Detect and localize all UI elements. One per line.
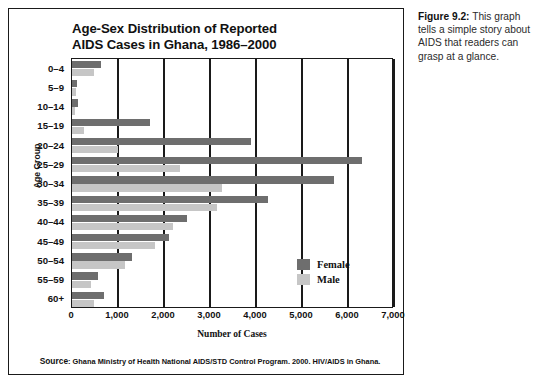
y-tick-label-25–29: 25–29: [37, 158, 64, 169]
bar-row: [72, 155, 392, 174]
bar-row: [72, 117, 392, 136]
bar-female-30–34: [72, 176, 334, 183]
bar-female-60+: [72, 292, 104, 299]
y-tick-label-40–44: 40–44: [37, 216, 64, 227]
y-tick-label-55–59: 55–59: [37, 274, 64, 285]
y-tick-label-10–14: 10–14: [37, 101, 64, 112]
y-tick-label-5–9: 5–9: [48, 81, 64, 92]
x-tick-label-1000: 1,000: [105, 310, 128, 320]
legend-item-female: Female: [297, 259, 350, 270]
y-tick-label-60+: 60+: [48, 293, 64, 304]
y-tick-label-35–39: 35–39: [37, 197, 64, 208]
chart-title: Age-Sex Distribution of Reported AIDS Ca…: [72, 21, 382, 52]
bar-row: [72, 290, 392, 309]
source-note: Source: Ghana Ministry of Health Nationa…: [27, 356, 393, 366]
bar-female-15–19: [72, 119, 150, 126]
x-tick-label-6000: 6,000: [335, 310, 358, 320]
bar-row: [72, 97, 392, 116]
bar-female-35–39: [72, 196, 268, 203]
bar-row: [72, 194, 392, 213]
source-label: Source: [40, 356, 68, 366]
bar-male-40–44: [72, 223, 173, 230]
x-axis-tick-labels: 01,0002,0003,0004,0005,0006,0007,000: [71, 310, 393, 326]
y-tick-label-30–34: 30–34: [37, 178, 64, 189]
legend-swatch-male-icon: [297, 274, 310, 285]
x-tick-label-4000: 4,000: [243, 310, 266, 320]
bar-female-50–54: [72, 253, 132, 260]
legend-label-female: Female: [317, 259, 350, 270]
legend-item-male: Male: [297, 274, 350, 285]
bar-row: [72, 232, 392, 251]
bar-row: [72, 78, 392, 97]
figure-page: Age-Sex Distribution of Reported AIDS Ca…: [0, 0, 549, 389]
y-axis-tick-labels: 0–45–910–1415–1920–2425–2930–3435–3940–4…: [9, 58, 69, 308]
bar-female-10–14: [72, 99, 78, 106]
bar-female-0–4: [72, 61, 101, 68]
bar-male-45–49: [72, 242, 155, 249]
bar-row: [72, 136, 392, 155]
bar-row: [72, 174, 392, 193]
bar-male-30–34: [72, 184, 222, 191]
bar-row: [72, 59, 392, 78]
figure-number: Figure 9.2:: [418, 11, 470, 22]
figure-caption: Figure 9.2: This graph tells a simple st…: [418, 10, 540, 63]
bar-female-5–9: [72, 80, 77, 87]
bar-male-10–14: [72, 107, 75, 114]
x-axis-title: Number of Cases: [71, 329, 393, 339]
chart-title-line-2: AIDS Cases in Ghana, 1986–2000: [72, 37, 382, 53]
bar-female-25–29: [72, 157, 362, 164]
bar-female-45–49: [72, 234, 169, 241]
chart-figure-box: Age-Sex Distribution of Reported AIDS Ca…: [8, 8, 404, 375]
x-tick-label-5000: 5,000: [289, 310, 312, 320]
chart-legend: Female Male: [297, 259, 350, 289]
gridline-7000: [393, 59, 394, 307]
bar-male-25–29: [72, 165, 180, 172]
x-tick-label-3000: 3,000: [197, 310, 220, 320]
bar-male-20–24: [72, 146, 118, 153]
bar-row: [72, 213, 392, 232]
legend-label-male: Male: [317, 274, 340, 285]
bar-male-35–39: [72, 204, 217, 211]
x-tick-label-2000: 2,000: [151, 310, 174, 320]
chart-title-line-1: Age-Sex Distribution of Reported: [72, 21, 382, 37]
x-tick-label-7000: 7,000: [381, 310, 404, 320]
bar-male-5–9: [72, 88, 76, 95]
bar-female-40–44: [72, 215, 187, 222]
bar-male-0–4: [72, 69, 94, 76]
y-tick-label-50–54: 50–54: [37, 254, 64, 265]
bar-male-50–54: [72, 261, 125, 268]
bar-female-55–59: [72, 272, 98, 279]
y-tick-label-45–49: 45–49: [37, 235, 64, 246]
y-tick-label-15–19: 15–19: [37, 120, 64, 131]
y-tick-label-20–24: 20–24: [37, 139, 64, 150]
bar-male-60+: [72, 300, 94, 307]
bar-male-55–59: [72, 281, 91, 288]
legend-swatch-female-icon: [297, 259, 310, 270]
source-text: Ghana Ministry of Health National AIDS/S…: [71, 357, 381, 366]
x-tick-label-0: 0: [68, 310, 73, 320]
y-tick-label-0–4: 0–4: [48, 62, 64, 73]
bar-male-15–19: [72, 127, 84, 134]
bar-female-20–24: [72, 138, 251, 145]
